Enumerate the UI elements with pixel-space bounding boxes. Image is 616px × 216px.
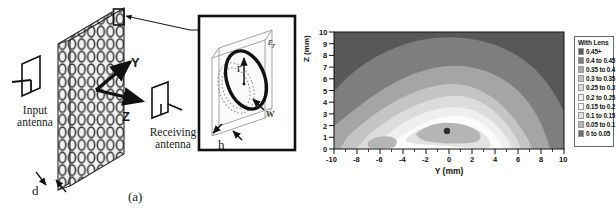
contour-legend: With Lens 0.45+0.4 to 0.450.35 to 0.40.3…: [574, 36, 614, 147]
legend-label: 0 to 0.05: [586, 130, 610, 137]
axis-label-z: Z: [122, 110, 130, 124]
ytick-label-3: 3: [323, 110, 327, 119]
xtick-label-7: 4: [493, 155, 497, 164]
legend-label: 0.35 to 0.4: [586, 66, 615, 73]
xtick-label-6: 2: [470, 155, 474, 164]
xtick-label-8: 6: [516, 155, 520, 164]
y-axis-title: Z (mm): [302, 35, 311, 62]
legend-swatch: [578, 94, 584, 101]
legend-swatch: [578, 66, 584, 73]
ytick-label-9: 9: [323, 40, 327, 49]
legend-row: 0.45+: [578, 47, 611, 56]
legend-row: 0.1 to 0.15: [578, 111, 611, 120]
panel-b-contour-plot: -10 -8 -6 -4 -2 0 2 4 6 8 10 0 1 2 3 4 5…: [308, 0, 616, 216]
xtick-label-2: -6: [376, 155, 383, 164]
xtick-label-9: 8: [539, 155, 543, 164]
inset-height-label: h: [218, 138, 225, 152]
ytick-label-1: 1: [323, 133, 327, 142]
xtick-label-1: -8: [353, 155, 360, 164]
ytick-label-7: 7: [323, 63, 327, 72]
legend-title: With Lens: [578, 39, 611, 46]
panel-a-caption: (a): [128, 190, 142, 204]
inset-width-label: w: [266, 107, 275, 120]
callout-leader-line: [126, 16, 199, 30]
xtick-label-3: -4: [399, 155, 406, 164]
legend-row: 0.15 to 0.2: [578, 102, 611, 111]
legend-swatch: [578, 103, 584, 110]
legend-row: 0.35 to 0.4: [578, 65, 611, 74]
metamaterial-slab-front: [70, 8, 124, 186]
inset-radius-label: r: [237, 62, 241, 75]
inset-permittivity-label: εr: [268, 36, 275, 51]
legend-swatch: [578, 75, 584, 82]
ytick-label-5: 5: [323, 87, 327, 96]
legend-rows: 0.45+0.4 to 0.450.35 to 0.40.3 to 0.350.…: [578, 47, 611, 138]
dimension-label-d: d: [32, 184, 39, 198]
legend-label: 0.05 to 0.1: [586, 121, 615, 128]
legend-swatch: [578, 130, 584, 137]
xtick-label-4: -2: [422, 155, 429, 164]
figure-container: Input antenna Receiving antenna Y Z d εr…: [0, 0, 616, 216]
legend-label: 0.15 to 0.2: [586, 103, 615, 110]
panel-a-schematic: Input antenna Receiving antenna Y Z d εr…: [0, 0, 308, 216]
ytick-label-0: 0: [323, 145, 327, 154]
legend-row: 0.05 to 0.1: [578, 120, 611, 129]
legend-swatch: [578, 57, 584, 64]
legend-label: 0.25 to 0.3: [586, 84, 615, 91]
ytick-label-10: 10: [319, 28, 327, 37]
input-antenna-label: Input antenna: [6, 104, 64, 128]
plot-axes: [308, 0, 616, 216]
legend-label: 0.2 to 0.25: [586, 94, 615, 101]
legend-swatch: [578, 84, 584, 91]
legend-label: 0.45+: [586, 48, 601, 55]
input-antenna-symbol: [12, 56, 40, 96]
xtick-label-10: 10: [559, 155, 567, 164]
legend-row: 0.3 to 0.35: [578, 74, 611, 83]
legend-swatch: [578, 112, 584, 119]
axis-label-y: Y: [131, 56, 140, 70]
receiving-antenna-label: Receiving antenna: [140, 126, 206, 150]
legend-label: 0.3 to 0.35: [586, 75, 615, 82]
legend-row: 0.2 to 0.25: [578, 92, 611, 101]
xtick-label-5: 0: [447, 155, 451, 164]
legend-row: 0.25 to 0.3: [578, 83, 611, 92]
ytick-label-4: 4: [323, 98, 327, 107]
legend-label: 0.1 to 0.15: [586, 112, 615, 119]
inset-unit-cell-panel: [199, 16, 295, 150]
legend-row: 0 to 0.05: [578, 129, 611, 138]
x-axis-title: Y (mm): [334, 166, 564, 176]
xtick-label-0: -10: [326, 155, 337, 164]
ytick-label-6: 6: [323, 75, 327, 84]
ytick-label-2: 2: [323, 122, 327, 131]
legend-label: 0.4 to 0.45: [586, 57, 615, 64]
legend-swatch: [578, 48, 584, 55]
ytick-label-8: 8: [323, 51, 327, 60]
legend-row: 0.4 to 0.45: [578, 56, 611, 65]
legend-swatch: [578, 121, 584, 128]
receiving-antenna-symbol: [152, 82, 182, 118]
